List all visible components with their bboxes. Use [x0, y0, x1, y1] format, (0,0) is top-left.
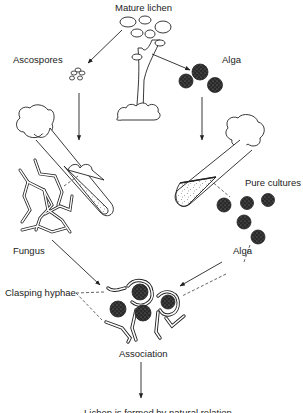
- label-pure-cultures: Pure cultures: [245, 178, 301, 188]
- label-clasping-hyphae: Clasping hyphae: [5, 288, 76, 298]
- alga-culture-tube: [175, 115, 264, 207]
- alga-pure-culture-cells: [217, 194, 275, 245]
- label-bottom-caption-cut: Lichen is formed by natural relation: [84, 408, 232, 413]
- label-fungus: Fungus: [13, 246, 45, 256]
- mature-lichen-illustration: [117, 16, 171, 120]
- ascospores-illustration: [70, 68, 86, 80]
- label-mature-lichen: Mature lichen: [115, 3, 172, 13]
- label-alga-top: Alga: [222, 55, 241, 65]
- arrows-to-association: [52, 240, 222, 398]
- label-alga-bottom: Alga: [233, 246, 252, 256]
- association-illustration: [106, 281, 184, 342]
- label-association: Association: [119, 349, 168, 359]
- fungus-culture-tube: [17, 105, 114, 216]
- label-ascospores: Ascospores: [13, 55, 63, 65]
